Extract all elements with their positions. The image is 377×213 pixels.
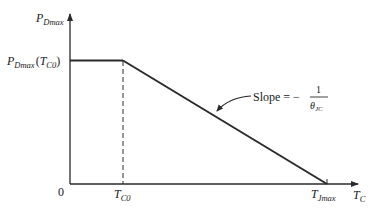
power-derating-diagram: PDmax PDmax(TC0) 0 TC0 TJmax TC Slope = …: [0, 0, 377, 213]
x-axis-label: TC: [353, 188, 366, 204]
y-axis-label: PDmax: [35, 11, 64, 27]
slope-annotation-arrow: [217, 96, 251, 111]
derating-slope-line: [123, 61, 327, 185]
plateau-value-label: PDmax(TC0): [6, 54, 60, 70]
slope-numerator: 1: [316, 84, 321, 95]
slope-denominator: θJC: [310, 100, 323, 113]
tjmax-tick-label: TJmax: [311, 187, 336, 203]
slope-annotation-prefix: Slope = −: [253, 90, 300, 104]
origin-label: 0: [58, 185, 64, 199]
tc0-tick-label: TC0: [114, 187, 131, 203]
slope-annotation: Slope = − 1 θJC: [253, 84, 328, 113]
